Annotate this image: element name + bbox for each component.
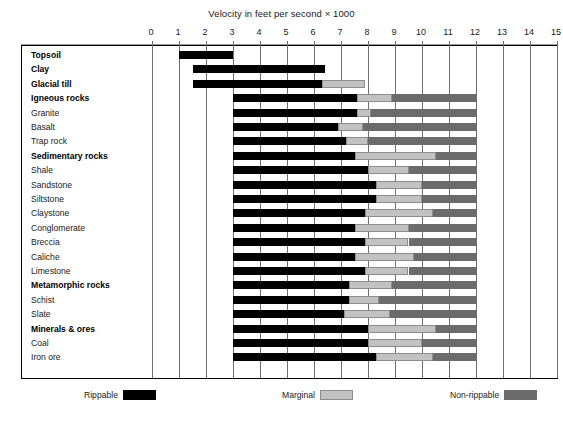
x-tick-label-7: 7 [337,27,342,37]
bar-segment-non-rippable [390,310,476,318]
chart-row: Basalt [22,123,557,137]
legend-label: Non-rippable [450,390,499,400]
x-tick-label-14: 14 [524,27,534,37]
bar-segment-non-rippable [433,353,476,361]
chart-row: Metamorphic rocks [22,281,557,295]
bar-segment-rippable [193,65,325,73]
bar-segment-marginal [338,123,362,131]
bar-segment-rippable [233,195,376,203]
stacked-bar [22,310,557,318]
chart-row: Conglomerate [22,224,557,238]
bar-segment-rippable [233,137,346,145]
stacked-bar [22,51,557,59]
x-tick-label-4: 4 [256,27,261,37]
bar-segment-non-rippable [368,137,476,145]
x-tick-label-3: 3 [229,27,234,37]
bar-segment-marginal [368,325,436,333]
chart-axis-title: Velocity in feet per second × 1000 [0,8,563,19]
bar-rows-layer: TopsoilClayGlacial tillIgneous rocksGran… [22,46,557,378]
x-tick-label-0: 0 [148,27,153,37]
legend-swatch-nonrippable-icon [504,390,537,400]
bar-segment-rippable [233,353,376,361]
stacked-bar [22,339,557,347]
chart-legend: RippableMarginalNon-rippable [0,388,563,406]
legend-item-marginal[interactable]: Marginal [282,388,353,402]
bar-segment-rippable [233,238,365,246]
bar-segment-rippable [233,296,349,304]
bar-segment-rippable [233,267,365,275]
stacked-bar [22,80,557,88]
chart-row: Slate [22,310,557,324]
stacked-bar [22,253,557,261]
legend-item-rippable[interactable]: Rippable [84,388,156,402]
chart-row: Minerals & ores [22,325,557,339]
stacked-bar [22,152,557,160]
bar-segment-marginal [365,267,408,275]
bar-segment-non-rippable [409,224,477,232]
stacked-bar [22,281,557,289]
bar-segment-marginal [344,310,390,318]
bar-segment-non-rippable [433,209,476,217]
legend-item-nonrippable[interactable]: Non-rippable [450,388,537,402]
stacked-bar [22,195,557,203]
x-tick-label-6: 6 [310,27,315,37]
bar-segment-marginal [322,80,365,88]
stacked-bar [22,166,557,174]
legend-label: Rippable [84,390,118,400]
chart-row: Siltstone [22,195,557,209]
x-axis-tick-labels: 0123456789101112131415 [0,27,563,41]
bar-segment-non-rippable [409,267,477,275]
legend-label: Marginal [282,390,315,400]
stacked-bar [22,325,557,333]
bar-segment-non-rippable [409,166,477,174]
bar-segment-rippable [233,209,365,217]
bar-segment-marginal [349,281,392,289]
chart-row: Clay [22,65,557,79]
stacked-bar [22,123,557,131]
x-tick-label-10: 10 [416,27,426,37]
bar-segment-non-rippable [422,181,476,189]
chart-row: Limestone [22,267,557,281]
bar-segment-rippable [233,339,368,347]
bar-segment-marginal [355,224,409,232]
x-tick-label-12: 12 [470,27,480,37]
bar-segment-rippable [233,253,355,261]
stacked-bar [22,353,557,361]
stacked-bar [22,137,557,145]
x-tick-label-13: 13 [497,27,507,37]
bar-segment-non-rippable [436,325,477,333]
bar-segment-marginal [346,137,368,145]
x-tick-label-1: 1 [175,27,180,37]
bar-segment-non-rippable [392,281,476,289]
bar-segment-marginal [357,109,371,117]
bar-segment-rippable [233,94,357,102]
bar-segment-marginal [355,253,414,261]
bar-segment-marginal [349,296,379,304]
bar-segment-rippable [233,224,355,232]
bar-segment-non-rippable [414,253,476,261]
x-tick-label-5: 5 [283,27,288,37]
bar-segment-non-rippable [422,195,476,203]
bar-segment-marginal [376,195,422,203]
stacked-bar [22,181,557,189]
stacked-bar [22,296,557,304]
bar-segment-rippable [233,325,368,333]
chart-row: Granite [22,109,557,123]
chart-row: Shale [22,166,557,180]
bar-segment-marginal [365,238,408,246]
legend-swatch-marginal-icon [320,390,353,400]
bar-segment-marginal [355,152,436,160]
chart-row: Breccia [22,238,557,252]
gridline-15 [557,46,558,378]
bar-segment-marginal [368,166,409,174]
plot-frame: TopsoilClayGlacial tillIgneous rocksGran… [21,45,558,379]
axis-tick-15 [557,41,558,46]
chart-row: Sandstone [22,181,557,195]
bar-segment-non-rippable [392,94,476,102]
x-tick-label-8: 8 [364,27,369,37]
bar-segment-marginal [376,181,422,189]
bar-segment-rippable [233,181,376,189]
chart-row: Topsoil [22,51,557,65]
chart-row: Coal [22,339,557,353]
bar-segment-non-rippable [409,238,477,246]
